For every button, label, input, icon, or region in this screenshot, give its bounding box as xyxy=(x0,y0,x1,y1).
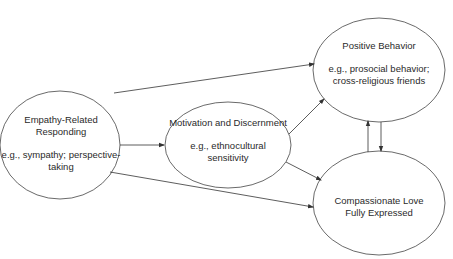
node-empathy: Empathy-Related Responding e.g., sympath… xyxy=(0,114,122,173)
node-positive: Positive Behavior e.g., prosocial behavi… xyxy=(314,40,444,87)
node-motivation-title: Motivation and Discernment xyxy=(162,117,294,129)
node-motivation: Motivation and Discernment e.g., ethnocu… xyxy=(162,117,294,164)
node-compassionate-title-2: Fully Expressed xyxy=(314,207,444,219)
node-empathy-example-1: e.g., sympathy; perspective- xyxy=(0,149,122,161)
node-compassionate-title-1: Compassionate Love xyxy=(314,195,444,207)
node-motivation-example-2: sensitivity xyxy=(162,152,294,164)
node-empathy-example-2: taking xyxy=(0,161,122,173)
node-motivation-example-1: e.g., ethnocultural xyxy=(162,140,294,152)
node-empathy-title-2: Responding xyxy=(0,126,122,138)
edge-empathy-positive xyxy=(114,64,314,93)
node-compassionate: Compassionate Love Fully Expressed xyxy=(314,195,444,219)
node-positive-example-2: cross-religious friends xyxy=(314,75,444,87)
edge-motivation-positive xyxy=(289,99,324,134)
node-positive-title: Positive Behavior xyxy=(314,40,444,52)
node-positive-example-1: e.g., prosocial behavior; xyxy=(314,63,444,75)
edge-empathy-compassionate xyxy=(110,172,313,207)
node-empathy-title-1: Empathy-Related xyxy=(0,114,122,126)
edge-motivation-compassionate xyxy=(286,162,321,180)
